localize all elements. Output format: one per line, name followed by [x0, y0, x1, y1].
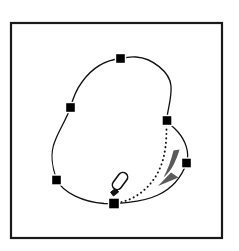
control-point-handle-lower-left[interactable]: [52, 175, 62, 185]
control-point-handle-bottom[interactable]: [109, 198, 120, 209]
control-point-handle-lower-right[interactable]: [182, 158, 192, 168]
figure-canvas: [0, 0, 239, 251]
control-point-handle-upper-left[interactable]: [66, 103, 76, 113]
control-point-handle-top[interactable]: [116, 54, 126, 64]
vector-figure: [0, 0, 239, 251]
control-point-handle-upper-right[interactable]: [162, 116, 172, 126]
